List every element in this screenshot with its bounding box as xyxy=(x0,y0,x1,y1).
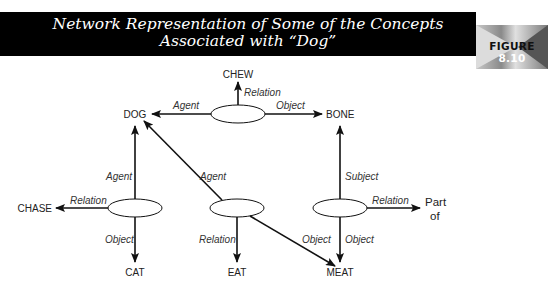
proposition-node-part-of xyxy=(313,199,367,217)
label-left-agent: Agent xyxy=(105,171,133,182)
concept-part-of-line1: Part xyxy=(425,196,447,208)
proposition-node-chew xyxy=(211,105,265,123)
label-top-relation: Relation xyxy=(244,87,281,98)
label-right-relation: Relation xyxy=(372,195,409,206)
concept-meat: MEAT xyxy=(326,267,353,278)
proposition-node-chase xyxy=(108,199,162,217)
concept-bone: BONE xyxy=(326,109,355,120)
label-left-relation: Relation xyxy=(70,195,107,206)
label-right-object: Object xyxy=(345,234,375,245)
label-mid-agent: Agent xyxy=(199,171,227,182)
label-mid-relation: Relation xyxy=(199,234,236,245)
concept-chew: CHEW xyxy=(223,69,254,80)
label-right-subject: Subject xyxy=(345,171,380,182)
proposition-node-eat xyxy=(210,199,264,217)
concept-chase: CHASE xyxy=(18,203,53,214)
label-top-object: Object xyxy=(276,100,306,111)
semantic-network-diagram: CHEW DOG BONE CHASE CAT EAT MEAT Part of… xyxy=(0,0,552,298)
concept-part-of-line2: of xyxy=(430,210,440,222)
label-top-agent: Agent xyxy=(172,100,200,111)
label-mid-object: Object xyxy=(302,234,332,245)
concept-eat: EAT xyxy=(228,267,247,278)
edge-eat-agent xyxy=(144,121,222,200)
label-left-object: Object xyxy=(105,234,135,245)
concept-dog: DOG xyxy=(124,109,147,120)
concept-cat: CAT xyxy=(125,267,144,278)
